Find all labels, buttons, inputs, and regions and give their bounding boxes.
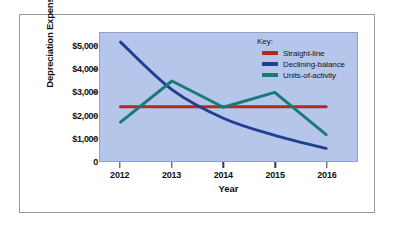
y-tick-mark (92, 45, 98, 46)
y-axis-ticks: $5,000$4,000$3,000$2,000$1,0000 (36, 29, 98, 161)
x-tick-label: 2014 (200, 170, 246, 180)
legend-swatch-icon (262, 73, 278, 77)
legend-entry-label: Units-of-activity (283, 71, 336, 80)
x-tick-mark (119, 162, 120, 168)
x-tick-mark (274, 162, 275, 168)
legend-entry-list: Straight-lineDeclining-balanceUnits-of-a… (257, 48, 353, 80)
x-tick-label: 2015 (252, 170, 298, 180)
legend-entry: Straight-line (257, 48, 353, 58)
y-tick-mark (92, 68, 98, 69)
plot-area: Key: Straight-lineDeclining-balanceUnits… (99, 32, 358, 162)
chart-legend: Key: Straight-lineDeclining-balanceUnits… (257, 37, 353, 81)
x-axis-title: Year (99, 183, 358, 194)
y-tick-label: $5,000 (46, 41, 98, 51)
y-tick-label: $2,000 (46, 111, 98, 121)
y-tick-label: $4,000 (46, 64, 98, 74)
y-tick-label: 0 (46, 157, 98, 167)
x-tick-label: 2012 (97, 170, 143, 180)
y-tick-mark (92, 138, 98, 139)
x-tick-mark (171, 162, 172, 168)
y-tick-mark (92, 115, 98, 116)
legend-swatch-icon (262, 51, 278, 55)
legend-entry: Declining-balance (257, 59, 353, 69)
x-tick-mark (326, 162, 327, 168)
legend-entry-label: Straight-line (283, 49, 324, 58)
chart-figure-frame: Depreciation Expense $5,000$4,000$3,000$… (19, 14, 375, 213)
x-tick-mark (223, 162, 224, 168)
x-tick-label: 2016 (304, 170, 350, 180)
y-tick-mark (92, 92, 98, 93)
legend-title: Key: (257, 37, 353, 46)
y-tick-label: $3,000 (46, 87, 98, 97)
y-tick-label: $1,000 (46, 134, 98, 144)
legend-entry-label: Declining-balance (283, 60, 345, 69)
legend-swatch-icon (262, 62, 278, 66)
legend-entry: Units-of-activity (257, 70, 353, 80)
x-tick-label: 2013 (149, 170, 195, 180)
